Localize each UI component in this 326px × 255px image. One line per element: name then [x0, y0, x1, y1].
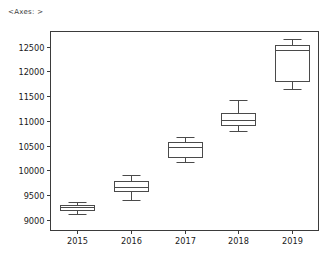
x-axis-ticks: 20152016201720182019 [67, 231, 303, 246]
y-tick-label: 11000 [18, 117, 44, 127]
box-plot-item [222, 101, 256, 132]
x-tick-label: 2016 [121, 236, 142, 246]
box-iqr [115, 182, 149, 192]
box-iqr [169, 143, 203, 158]
x-tick-label: 2017 [175, 236, 196, 246]
box-plot-item [61, 203, 95, 215]
y-tick-label: 10000 [18, 166, 44, 176]
x-tick-label: 2018 [228, 236, 249, 246]
x-tick-label: 2019 [282, 236, 303, 246]
box-plot-chart: 90009500100001050011000115001200012500 2… [0, 0, 326, 255]
y-tick-label: 11500 [18, 92, 44, 102]
box-plot-item [169, 138, 203, 163]
y-tick-label: 10500 [18, 142, 44, 152]
x-tick-label: 2015 [67, 236, 88, 246]
y-tick-label: 12500 [18, 43, 44, 53]
y-tick-label: 9000 [24, 216, 45, 226]
box-plot-series [61, 40, 310, 215]
y-tick-label: 9500 [24, 191, 45, 201]
y-tick-label: 12000 [18, 67, 44, 77]
matplotlib-figure: <Axes: > 9000950010000105001100011500120… [0, 0, 326, 255]
box-plot-item [276, 40, 310, 90]
y-axis-ticks: 90009500100001050011000115001200012500 [18, 43, 50, 226]
box-iqr [222, 114, 256, 126]
box-plot-item [115, 176, 149, 201]
